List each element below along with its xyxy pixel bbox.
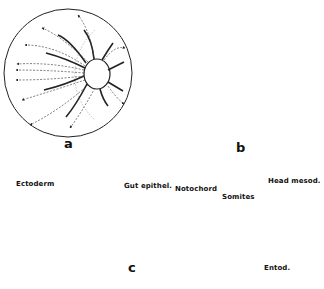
panel-label-c: c (128, 260, 136, 275)
label-ectoderm: Ectoderm (16, 180, 54, 188)
panel-a-drawing (4, 9, 132, 137)
diagram-figure (0, 0, 324, 289)
label-notochord: Notochord (175, 185, 217, 193)
panel-label-b: b (236, 140, 245, 155)
panel-label-a: a (64, 136, 73, 151)
label-somites: Somites (222, 193, 255, 201)
label-head-mesod: Head mesod. (268, 177, 321, 185)
label-entod: Entod. (264, 264, 290, 272)
label-gut-epithel: Gut epithel. (124, 182, 172, 190)
